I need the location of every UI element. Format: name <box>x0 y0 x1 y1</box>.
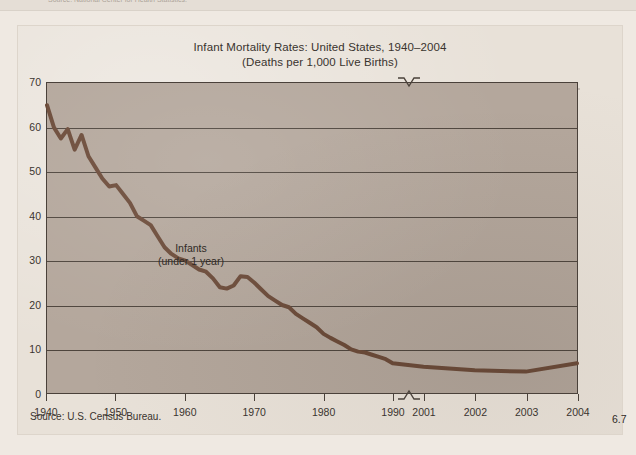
x-axis-tick <box>578 394 579 401</box>
x-axis-tick-label: 1990 <box>381 406 404 418</box>
x-axis-tick <box>424 394 425 401</box>
series-line-infants <box>47 105 577 371</box>
x-axis-tick-label: 2003 <box>515 406 538 418</box>
x-axis-tick <box>527 394 528 401</box>
series-annotation-infants: Infants (under 1 year) <box>158 242 224 268</box>
figure-card: Infant Mortality Rates: United States, 1… <box>18 26 622 434</box>
y-axis-tick-label: 0 <box>35 388 41 400</box>
chart-title: Infant Mortality Rates: United States, 1… <box>18 40 622 55</box>
y-axis: 706050403020100 <box>18 82 44 394</box>
y-axis-tick-label: 40 <box>29 210 41 222</box>
previous-figure-sliver: Source: National Center for Health Stati… <box>0 0 636 11</box>
x-axis-tick-label: 1960 <box>173 406 196 418</box>
chart-subtitle: (Deaths per 1,000 Live Births) <box>18 55 622 70</box>
endpoint-value-label: 6.7 <box>612 413 627 425</box>
x-axis-tick <box>254 394 255 401</box>
y-axis-tick-label: 10 <box>29 343 41 355</box>
x-axis-tick-label: 2004 <box>566 406 589 418</box>
x-axis-tick-label: 2001 <box>412 406 435 418</box>
x-axis-tick-label: 2002 <box>464 406 487 418</box>
x-axis-tick <box>475 394 476 401</box>
series-annotation-line-2: (under 1 year) <box>158 255 224 268</box>
y-axis-tick-label: 60 <box>29 121 41 133</box>
plot-area <box>46 82 578 394</box>
source-note: Source: U.S. Census Bureau. <box>30 411 161 422</box>
series-annotation-line-1: Infants <box>158 242 224 255</box>
y-axis-tick-label: 20 <box>29 299 41 311</box>
previous-figure-source-text: Source: National Center for Health Stati… <box>48 0 187 3</box>
series-line-chart <box>47 83 577 394</box>
y-axis-tick-label: 30 <box>29 254 41 266</box>
x-axis-tick <box>115 394 116 401</box>
x-axis-tick-label: 1980 <box>312 406 335 418</box>
x-axis-tick <box>46 394 47 401</box>
plot-wrapper: 706050403020100 194019501960197019801990… <box>46 82 578 394</box>
y-axis-tick-label: 50 <box>29 165 41 177</box>
scan-speck <box>578 88 580 90</box>
x-axis-tick <box>324 394 325 401</box>
y-axis-tick-label: 70 <box>29 76 41 88</box>
x-axis-tick <box>185 394 186 401</box>
x-axis-tick <box>393 394 394 401</box>
x-axis-tick-label: 1970 <box>243 406 266 418</box>
